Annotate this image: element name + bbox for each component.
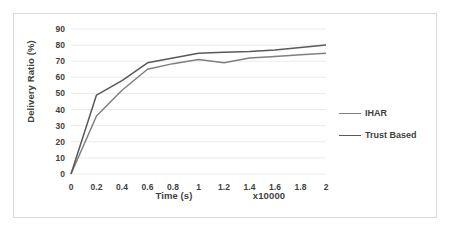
chart-figure: Delivery Ratio (%) Time (s) x10000 01020…: [0, 0, 450, 245]
legend-label: IHAR: [365, 108, 387, 118]
legend-item-ihar[interactable]: IHAR: [339, 102, 434, 124]
series-line-ihar: [71, 53, 326, 174]
y-tick-label: 70: [37, 56, 65, 66]
legend-line-swatch: [339, 113, 361, 114]
y-tick-label: 0: [37, 169, 65, 179]
y-tick-label: 30: [37, 121, 65, 131]
y-tick-label: 10: [37, 153, 65, 163]
y-tick-label: 20: [37, 137, 65, 147]
gridlines-group: [71, 29, 326, 174]
chart-legend: IHARTrust Based: [339, 102, 434, 146]
y-tick-label: 40: [37, 105, 65, 115]
y-tick-label: 60: [37, 72, 65, 82]
y-tick-label: 90: [37, 24, 65, 34]
legend-label: Trust Based: [365, 130, 417, 140]
x-tick-label: 2: [311, 182, 341, 192]
y-tick-label: 50: [37, 88, 65, 98]
y-tick-label: 80: [37, 40, 65, 50]
legend-line-swatch: [339, 135, 361, 136]
y-axis-title: Delivery Ratio (%): [25, 22, 36, 142]
chart-plot-frame: Delivery Ratio (%) Time (s) x10000 01020…: [13, 13, 437, 218]
legend-item-trust-based[interactable]: Trust Based: [339, 124, 434, 146]
